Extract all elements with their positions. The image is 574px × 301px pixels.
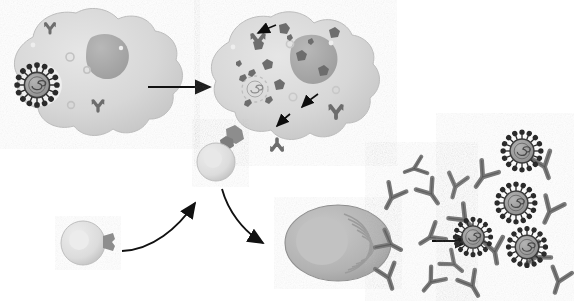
diagram-svg [0, 0, 574, 301]
diagram-canvas [0, 0, 574, 301]
virion-neutralized [507, 227, 548, 268]
virion-engulfed [15, 63, 59, 107]
virion-neutralized [495, 182, 537, 224]
virion-neutralized [453, 217, 492, 256]
vesicle [231, 45, 236, 50]
b-cell-nucleus [204, 150, 222, 168]
plasma-cell-nucleus [296, 217, 348, 265]
vesicle [31, 43, 36, 48]
naive-b-cell-nucleus [69, 230, 89, 250]
vesicle [329, 41, 334, 46]
virion-neutralized [501, 130, 543, 172]
vesicle [119, 46, 123, 50]
